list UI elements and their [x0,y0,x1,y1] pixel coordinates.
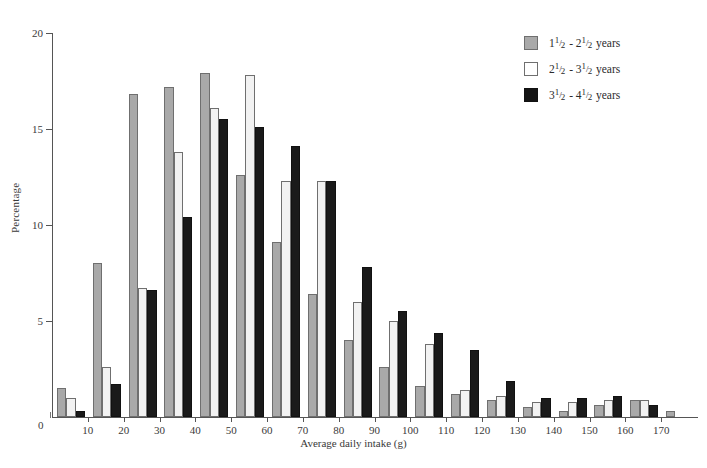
y-tick [46,225,52,226]
x-tick-label: 50 [226,424,237,436]
legend-swatch-gray [524,36,538,50]
bar [532,402,541,417]
bar [649,405,658,417]
x-axis-title: Average daily intake (g) [0,437,707,449]
y-tick [46,33,52,34]
legend-swatch-black [524,88,538,102]
bar [291,146,300,417]
bar-chart: Percentage 0 Average daily intake (g) 51… [0,0,707,468]
cropped-header-remnant [0,0,707,9]
x-tick [590,417,591,422]
x-tick-label: 80 [333,424,344,436]
bar [326,181,335,417]
bar [129,94,138,417]
y-axis-title: Percentage [9,183,21,233]
x-tick [375,417,376,422]
bar [317,181,326,417]
bar [255,127,264,417]
bar [245,75,254,417]
origin-tick [50,412,51,418]
x-tick [661,417,662,422]
y-tick-label: 20 [32,28,43,39]
x-tick [195,417,196,422]
bar [183,217,192,417]
x-tick-label: 150 [581,424,598,436]
bar [523,407,532,417]
bar [389,321,398,417]
legend-label-1: 21/2 - 31/2 years [549,63,620,75]
bar [138,288,147,417]
x-tick [518,417,519,422]
bar [200,73,209,417]
x-tick [231,417,232,422]
bar [66,398,75,417]
bar [506,381,515,417]
x-tick-label: 10 [82,424,93,436]
x-tick-label: 70 [297,424,308,436]
y-tick [46,321,52,322]
origin-label: 0 [38,419,44,431]
x-tick [267,417,268,422]
x-tick-label: 170 [653,424,670,436]
x-tick [303,417,304,422]
x-tick [482,417,483,422]
bar [210,108,219,417]
bar [568,402,577,417]
y-tick-label: 10 [32,220,43,231]
bar [594,405,603,417]
x-tick-label: 30 [154,424,165,436]
bar [362,267,371,417]
legend-item: 21/2 - 31/2 years [524,56,699,82]
bar [353,302,362,417]
bar [470,350,479,417]
bar [93,263,102,417]
bar [164,87,173,417]
bar [604,400,613,417]
bar [147,290,156,417]
bar [415,386,424,417]
bar [425,344,434,417]
y-tick-label: 15 [32,124,43,135]
y-tick [46,129,52,130]
legend-item: 11/2 - 21/2 years [524,30,699,56]
bar [57,388,66,417]
x-tick-label: 160 [617,424,634,436]
x-tick [554,417,555,422]
bar [272,242,281,417]
x-tick-label: 140 [545,424,562,436]
x-tick-label: 130 [510,424,527,436]
bar [308,294,317,417]
legend-label-2: 31/2 - 41/2 years [549,89,620,101]
bar [559,411,568,417]
x-tick [625,417,626,422]
y-tick-label: 5 [38,316,44,327]
bar [236,175,245,417]
bar [487,400,496,417]
x-tick-label: 100 [402,424,419,436]
bar [76,411,85,417]
bar [451,394,460,417]
x-tick-label: 110 [438,424,454,436]
x-tick-label: 60 [262,424,273,436]
x-tick [410,417,411,422]
bar [398,311,407,417]
bar [613,396,622,417]
bar [541,398,550,417]
bar [577,398,586,417]
legend: 11/2 - 21/2 years 21/2 - 31/2 years 31/2… [524,30,699,108]
bar [219,119,228,417]
x-tick [88,417,89,422]
bar [630,400,639,417]
bar [460,390,469,417]
x-tick [339,417,340,422]
x-tick [160,417,161,422]
x-tick-label: 120 [474,424,491,436]
bar [344,340,353,417]
bar [379,367,388,417]
x-tick [124,417,125,422]
bar [434,333,443,417]
legend-label-0: 11/2 - 21/2 years [549,37,620,49]
bar [640,400,649,417]
bar [174,152,183,417]
legend-swatch-white [524,62,538,76]
